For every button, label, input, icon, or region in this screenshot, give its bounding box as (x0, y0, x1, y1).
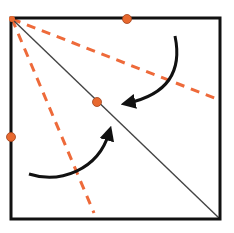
point-left-edge (7, 133, 16, 142)
fold-arrow-upper (128, 36, 177, 103)
fold-line-bottom (12, 19, 94, 213)
diagonal-line (12, 19, 219, 218)
fold-line-right (12, 19, 217, 99)
corner-point (9, 16, 15, 22)
fold-diagram (0, 0, 234, 233)
point-on-diagonal (93, 98, 102, 107)
point-top-edge (123, 15, 132, 24)
